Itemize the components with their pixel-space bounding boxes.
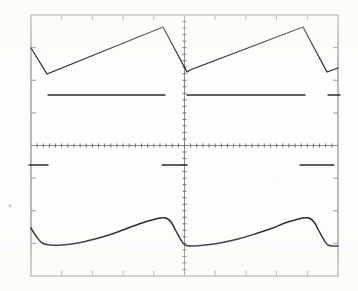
scope-trace-canvas [0,0,358,291]
stray-mark [9,205,12,208]
oscilloscope-screen [0,0,358,291]
annotation-group [9,205,12,208]
